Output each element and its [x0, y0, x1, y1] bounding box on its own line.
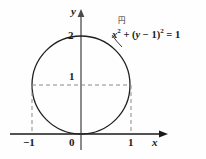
y-tick-label-1: 1 [69, 71, 75, 82]
y-axis-arrowhead [78, 9, 85, 17]
x-axis-arrowhead [159, 130, 168, 137]
x-tick-label-1: 1 [128, 137, 134, 148]
eq-equals: = [164, 29, 175, 40]
y-axis [78, 9, 85, 150]
figure-circle-plot: 円 x2 + (y − 1)2 = 1 y x 2 1 0 −1 1 [0, 0, 206, 159]
y-axis-label: y [71, 6, 76, 17]
eq-rhs: 1 [175, 29, 180, 40]
origin-label: 0 [69, 137, 75, 148]
x-tick-label-neg1: −1 [23, 137, 35, 148]
annotation-note: 円 [118, 17, 125, 25]
x-axis-label: x [152, 137, 158, 148]
eq-plus: + [121, 29, 132, 40]
y-tick-label-2: 2 [68, 30, 74, 41]
annotation-equation: x2 + (y − 1)2 = 1 [112, 28, 180, 40]
eq-minus-one: − 1 [140, 29, 156, 40]
